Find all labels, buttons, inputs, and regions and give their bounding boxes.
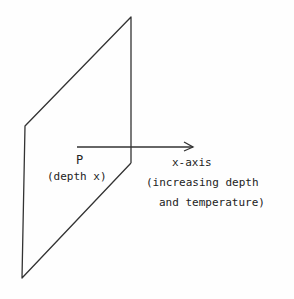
axis-description-line1: (increasing depth <box>146 177 259 188</box>
diagram-canvas: P (depth x) x-axis (increasing depth and… <box>0 0 294 299</box>
point-label: P <box>76 154 83 166</box>
diagram-lines <box>0 0 294 299</box>
axis-label: x-axis <box>172 157 212 168</box>
axis-description-line2: and temperature) <box>159 197 265 208</box>
point-depth-label: (depth x) <box>47 171 107 182</box>
